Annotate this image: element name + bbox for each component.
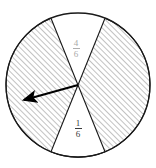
shaded-fraction-label: 4 6 <box>64 36 88 60</box>
pie-figure: 4 6 1 6 <box>0 0 156 168</box>
shaded-fraction-numerator: 4 <box>73 39 80 47</box>
unshaded-fraction-numerator: 1 <box>75 119 82 127</box>
unshaded-fraction-label: 1 6 <box>66 116 90 140</box>
unshaded-fraction-denominator: 6 <box>75 130 82 138</box>
pie-chart-svg <box>0 0 156 168</box>
shaded-fraction-denominator: 6 <box>73 50 80 58</box>
